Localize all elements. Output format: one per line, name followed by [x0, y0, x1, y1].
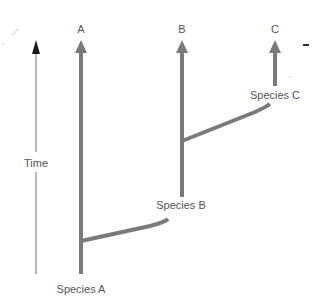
branch-a-to-b	[81, 219, 168, 241]
node-label-species-a: Species A	[57, 284, 106, 295]
arrowheads	[75, 40, 281, 53]
tip-label-c: C	[271, 24, 279, 35]
branch-b-to-c	[182, 104, 270, 141]
node-label-species-b: Species B	[156, 200, 206, 211]
tip-label-b: B	[178, 24, 185, 35]
time-axis-label: Time	[24, 158, 48, 169]
node-label-species-c: Species C	[250, 90, 300, 101]
arrow-c-icon	[269, 40, 281, 53]
arrow-a-icon	[75, 40, 87, 53]
time-arrow-icon	[32, 40, 40, 54]
tree-branches	[81, 52, 275, 274]
arrow-b-icon	[176, 40, 188, 53]
tip-label-a: A	[77, 24, 84, 35]
phylogenetic-tree-diagram	[0, 0, 324, 303]
scan-artifacts	[2, 29, 309, 78]
